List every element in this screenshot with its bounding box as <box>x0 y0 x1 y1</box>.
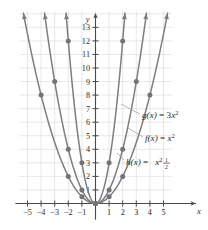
svg-text:2: 2 <box>121 208 125 217</box>
function-labels: g(x) = 3x2f(x) = x2h(x) = x212 <box>126 109 178 170</box>
svg-text:12: 12 <box>82 37 90 46</box>
svg-text:h(x) = x2: h(x) = x2 <box>126 156 162 167</box>
parabola-comparison-figure: −5−4−3−2−11234512345678910111213 g(x) = … <box>0 0 208 230</box>
svg-text:4: 4 <box>86 145 90 154</box>
svg-text:y: y <box>85 14 90 24</box>
svg-text:f(x) = x2: f(x) = x2 <box>145 132 175 143</box>
axis-tick-labels: −5−4−3−2−11234512345678910111213 <box>23 23 165 217</box>
svg-text:3: 3 <box>134 208 138 217</box>
svg-text:5: 5 <box>86 132 90 141</box>
svg-text:9: 9 <box>86 78 90 87</box>
svg-text:−3: −3 <box>50 208 59 217</box>
svg-text:13: 13 <box>82 23 90 32</box>
svg-text:−1: −1 <box>78 208 87 217</box>
svg-text:3: 3 <box>86 159 90 168</box>
svg-text:1: 1 <box>165 157 168 163</box>
svg-text:7: 7 <box>86 105 90 114</box>
svg-text:4: 4 <box>148 208 152 217</box>
svg-text:2: 2 <box>165 164 168 170</box>
svg-text:g(x) = 3x2: g(x) = 3x2 <box>142 109 178 120</box>
svg-text:11: 11 <box>82 50 90 59</box>
svg-text:−5: −5 <box>23 208 32 217</box>
svg-text:x: x <box>196 206 201 216</box>
svg-text:5: 5 <box>161 208 165 217</box>
svg-text:10: 10 <box>82 64 90 73</box>
coordinate-plane: −5−4−3−2−11234512345678910111213 g(x) = … <box>0 0 208 230</box>
svg-text:8: 8 <box>86 91 90 100</box>
svg-text:6: 6 <box>86 118 90 127</box>
svg-text:−2: −2 <box>64 208 73 217</box>
svg-text:−4: −4 <box>37 208 46 217</box>
svg-text:2: 2 <box>86 172 90 181</box>
svg-text:1: 1 <box>107 208 111 217</box>
